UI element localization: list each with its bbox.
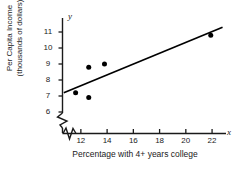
y-tick-label: 7	[41, 91, 56, 100]
y-tick-label: 8	[41, 75, 56, 84]
data-point-marker	[73, 90, 78, 95]
x-tick-label: 12	[72, 136, 90, 145]
y-tick-label: 6	[41, 107, 56, 116]
x-tick-label: 14	[98, 136, 116, 145]
x-tick-label: 18	[151, 136, 169, 145]
y-tick-label: 9	[41, 59, 56, 68]
scatter-plot-figure: Per Capita Income (thousands of dollars)…	[0, 0, 235, 169]
data-point-marker	[208, 33, 213, 38]
plot-area	[0, 0, 235, 169]
data-points	[73, 33, 213, 100]
trend-line	[64, 27, 223, 93]
x-tick-label: 16	[124, 136, 142, 145]
y-tick-label: 11	[41, 27, 56, 36]
y-tick-label: 10	[41, 43, 56, 52]
y-axis-title-line1: Per Capita Income	[5, 0, 15, 93]
x-tick-label: 22	[203, 136, 221, 145]
data-point-marker	[102, 62, 107, 67]
y-axis-title-line2: (thousands of dollars)	[15, 0, 25, 93]
y-axis-letter: y	[68, 11, 72, 21]
data-point-marker	[86, 95, 91, 100]
y-axis-break-symbol	[58, 113, 68, 128]
data-point-marker	[86, 65, 91, 70]
regression-line-segment	[64, 27, 223, 93]
x-axis-letter: x	[227, 127, 231, 137]
x-tick-label: 20	[177, 136, 195, 145]
x-axis-title: Percentage with 4+ years college	[42, 149, 228, 159]
y-axis-title: Per Capita Income (thousands of dollars)	[5, 0, 25, 93]
